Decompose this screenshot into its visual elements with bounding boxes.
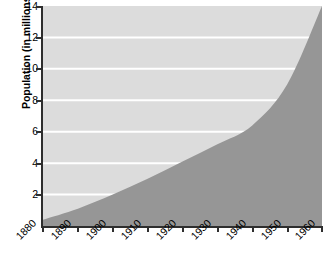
y-tick-label: 6 — [16, 126, 38, 136]
y-axis-line — [41, 6, 43, 227]
population-area-chart: Population (in millions) 14 12 10 8 6 4 … — [0, 0, 330, 271]
plot-area — [43, 6, 322, 226]
y-tick-label: 4 — [16, 158, 38, 168]
x-tick-mark — [77, 227, 79, 232]
y-tick-label: 8 — [16, 95, 38, 105]
x-tick-mark — [147, 227, 149, 232]
x-tick-mark — [42, 227, 44, 232]
y-tick-label: 14 — [16, 1, 38, 11]
x-tick-mark — [217, 227, 219, 232]
x-tick-mark — [287, 227, 289, 232]
y-tick-label: 12 — [16, 32, 38, 42]
x-tick-mark — [112, 227, 114, 232]
population-area-fill — [43, 6, 322, 226]
area-plot-svg — [43, 6, 322, 226]
x-tick-mark — [182, 227, 184, 232]
y-tick-label: 10 — [16, 63, 38, 73]
y-tick-label: 2 — [16, 189, 38, 199]
x-tick-mark — [252, 227, 254, 232]
x-tick-mark — [321, 227, 323, 232]
